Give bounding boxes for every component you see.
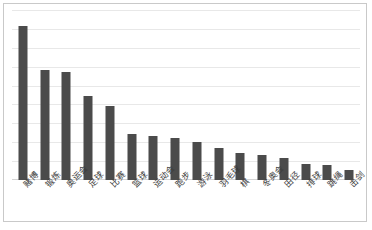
bar-slot	[338, 10, 360, 180]
category-label-slot: 击剑	[338, 180, 360, 224]
bar[interactable]	[40, 70, 49, 181]
bar-slot	[143, 10, 165, 180]
bar[interactable]	[214, 148, 223, 180]
category-label-slot: 跳绳	[317, 180, 339, 224]
chart-frame: 赌博锻炼奥运会足球比赛篮球运动会跑步游泳羽毛球棋冬奥会田径排球跳绳击剑	[3, 3, 367, 222]
category-label-slot: 羽毛球	[208, 180, 230, 224]
plot-area	[12, 10, 360, 180]
category-label-slot: 田径	[273, 180, 295, 224]
bar-slot	[56, 10, 78, 180]
category-labels: 赌博锻炼奥运会足球比赛篮球运动会跑步游泳羽毛球棋冬奥会田径排球跳绳击剑	[12, 180, 360, 224]
category-label-slot: 冬奥会	[251, 180, 273, 224]
category-label-slot: 棋	[230, 180, 252, 224]
bar[interactable]	[127, 134, 136, 180]
bar-slot	[230, 10, 252, 180]
category-label-slot: 运动会	[143, 180, 165, 224]
bar[interactable]	[62, 72, 71, 180]
category-label-slot: 游泳	[186, 180, 208, 224]
category-label-slot: 锻炼	[34, 180, 56, 224]
bar[interactable]	[192, 142, 201, 180]
category-label-slot: 赌博	[12, 180, 34, 224]
bar-slot	[295, 10, 317, 180]
category-label-slot: 足球	[77, 180, 99, 224]
bar-slot	[34, 10, 56, 180]
category-label-slot: 比赛	[99, 180, 121, 224]
bar-slot	[77, 10, 99, 180]
bar-slot	[317, 10, 339, 180]
category-label-slot: 跑步	[164, 180, 186, 224]
category-label-slot: 篮球	[121, 180, 143, 224]
bar[interactable]	[18, 26, 27, 180]
bar-slot	[121, 10, 143, 180]
bars-layer	[12, 10, 360, 180]
category-label-slot: 奥运会	[56, 180, 78, 224]
bar[interactable]	[149, 136, 158, 180]
bar[interactable]	[105, 106, 114, 180]
bar-slot	[273, 10, 295, 180]
bar-slot	[208, 10, 230, 180]
bar-slot	[251, 10, 273, 180]
bar-slot	[186, 10, 208, 180]
bar-slot	[99, 10, 121, 180]
bar-slot	[12, 10, 34, 180]
bar-slot	[164, 10, 186, 180]
category-label-slot: 排球	[295, 180, 317, 224]
